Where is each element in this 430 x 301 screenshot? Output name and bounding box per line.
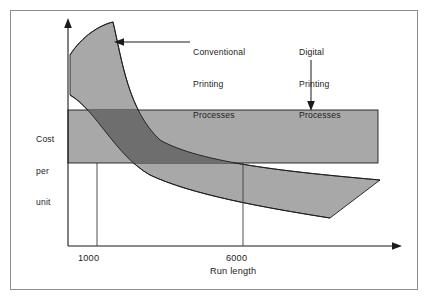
y-axis-title-line3: unit: [36, 197, 54, 208]
annotation-digital-printing: Digital Printing Processes: [299, 26, 341, 142]
x-tick-label-1000: 1000: [78, 253, 99, 264]
x-axis-title: Run length: [210, 266, 256, 277]
annotation-digital-line3: Processes: [299, 110, 341, 121]
annotation-conventional-printing: Conventional Printing Processes: [193, 26, 245, 142]
annotation-conventional-line2: Printing: [193, 79, 245, 90]
y-axis-title-line2: per: [36, 166, 54, 177]
y-axis-title: Cost per unit: [36, 113, 54, 229]
annotation-digital-line1: Digital: [299, 47, 341, 58]
x-axis: [68, 242, 402, 250]
conventional-pointer-arrow: [114, 38, 190, 46]
x-axis-arrowhead: [392, 242, 402, 250]
y-axis-arrowhead: [64, 18, 72, 28]
annotation-conventional-line1: Conventional: [193, 47, 245, 58]
chart-screenshot: Conventional Printing Processes Digital …: [0, 0, 430, 301]
annotation-digital-line2: Printing: [299, 79, 341, 90]
y-axis-title-line1: Cost: [36, 134, 54, 145]
annotation-conventional-line3: Processes: [193, 110, 245, 121]
x-tick-label-6000: 6000: [226, 253, 247, 264]
